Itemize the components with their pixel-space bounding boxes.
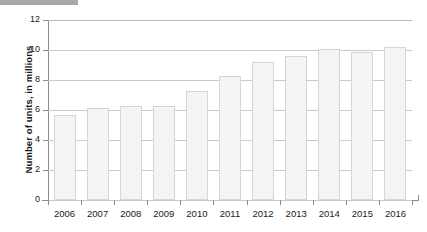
y-tick-mark-2: [43, 170, 48, 171]
x-tick-mark-2011: [213, 200, 214, 205]
x-tick-mark-2006: [48, 200, 49, 205]
bar-2014[interactable]: [318, 49, 340, 201]
x-tick-mark-end: [412, 200, 413, 205]
y-tick-label-4: 4: [16, 135, 40, 144]
bar-2015[interactable]: [351, 52, 373, 201]
x-tick-label-2016: 2016: [375, 209, 415, 219]
gridline-12: [48, 20, 412, 21]
y-tick-label-0: 0: [16, 195, 40, 204]
bar-2013[interactable]: [285, 56, 307, 200]
y-tick-label-10: 10: [16, 45, 40, 54]
x-tick-mark-2009: [147, 200, 148, 205]
bar-2007[interactable]: [87, 108, 109, 200]
y-tick-mark-4: [43, 140, 48, 141]
x-tick-mark-2015: [346, 200, 347, 205]
bar-2008[interactable]: [120, 106, 142, 200]
y-tick-mark-10: [43, 50, 48, 51]
y-tick-label-6: 6: [16, 105, 40, 114]
y-tick-mark-6: [43, 110, 48, 111]
bar-2011[interactable]: [219, 76, 241, 201]
bar-2016[interactable]: [384, 47, 406, 200]
bar-chart: Number of units, in millions 02468101220…: [0, 0, 427, 232]
x-tick-mark-2010: [180, 200, 181, 205]
bar-2009[interactable]: [153, 106, 175, 200]
plot-area: [48, 20, 412, 200]
x-tick-mark-2016: [379, 200, 380, 205]
gridline-0: [48, 200, 412, 201]
x-tick-mark-2013: [280, 200, 281, 205]
y-tick-label-12: 12: [16, 15, 40, 24]
y-tick-mark-8: [43, 80, 48, 81]
x-tick-mark-2008: [114, 200, 115, 205]
bar-2012[interactable]: [252, 62, 274, 200]
x-tick-mark-2014: [313, 200, 314, 205]
bar-2006[interactable]: [54, 115, 76, 200]
x-tick-mark-2012: [247, 200, 248, 205]
y-tick-label-8: 8: [16, 75, 40, 84]
y-tick-label-2: 2: [16, 165, 40, 174]
x-tick-mark-2007: [81, 200, 82, 205]
redaction-bar: [0, 0, 78, 5]
x-axis-end-cap: [418, 195, 419, 201]
y-tick-mark-12: [43, 20, 48, 21]
bar-2010[interactable]: [186, 91, 208, 200]
